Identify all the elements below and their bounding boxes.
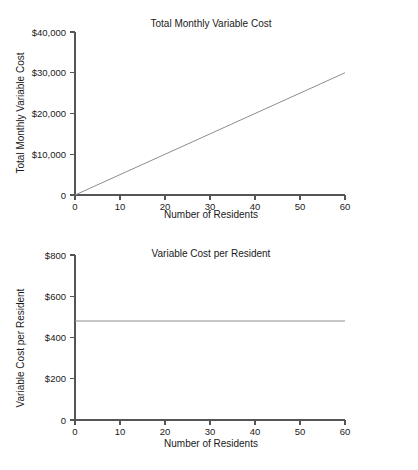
x-ticks-top [75,195,345,200]
y-tick-label: 0 [61,415,66,426]
y-tick-label: $20,000 [32,108,66,119]
y-tick-label: $30,000 [32,67,66,78]
data-series-total-variable-cost [75,73,345,195]
x-tick-label: 40 [250,426,261,437]
chart-title-bottom: Variable Cost per Resident [152,248,271,259]
chart-total-monthly-variable-cost: Total Monthly Variable Cost Total Monthl… [0,0,418,235]
y-axis-title-bottom: Variable Cost per Resident [15,288,26,407]
x-tick-label: 10 [115,426,126,437]
x-tick-labels-top: 0 10 20 30 40 50 60 [72,201,350,212]
y-tick-label: $400 [45,332,66,343]
y-tick-label: $40,000 [32,27,66,38]
x-tick-label: 0 [72,426,77,437]
x-tick-label: 20 [160,426,171,437]
y-ticks-bottom [70,255,75,420]
x-ticks-bottom [75,420,345,425]
y-tick-label: 0 [61,190,66,201]
y-ticks-top [70,32,75,195]
chart-canvas-bottom: Variable Cost per Resident Variable Cost… [0,235,418,470]
y-tick-label: $200 [45,373,66,384]
axis-spine-top [75,32,345,195]
chart-title-top: Total Monthly Variable Cost [151,18,272,29]
y-tick-label: $800 [45,250,66,261]
x-axis-title-bottom: Number of Residents [164,438,258,449]
x-tick-label: 50 [295,426,306,437]
x-tick-label: 20 [160,201,171,212]
x-tick-label: 30 [205,201,216,212]
x-tick-label: 60 [340,426,351,437]
chart-variable-cost-per-resident: Variable Cost per Resident Variable Cost… [0,235,418,470]
x-tick-labels-bottom: 0 10 20 30 40 50 60 [72,426,350,437]
x-tick-label: 10 [115,201,126,212]
axis-spine-bottom [75,255,345,420]
y-tick-labels-top: $40,000 $30,000 $20,000 $10,000 0 [32,27,66,201]
x-tick-label: 0 [72,201,77,212]
x-tick-label: 50 [295,201,306,212]
y-tick-label: $10,000 [32,149,66,160]
chart-canvas-top: Total Monthly Variable Cost Total Monthl… [0,0,418,235]
x-tick-label: 40 [250,201,261,212]
y-tick-labels-bottom: $800 $600 $400 $200 0 [45,250,66,426]
y-tick-label: $600 [45,291,66,302]
x-tick-label: 60 [340,201,351,212]
x-tick-label: 30 [205,426,216,437]
y-axis-title-top: Total Monthly Variable Cost [15,52,26,173]
